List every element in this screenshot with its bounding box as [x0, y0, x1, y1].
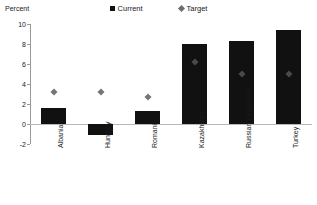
y-axis-tick-label: 4 — [0, 81, 26, 88]
legend-item-target: Target — [179, 5, 208, 13]
x-axis-category-label: Romania — [151, 120, 158, 148]
y-axis-tick-mark — [27, 144, 30, 145]
legend-label-current: Current — [118, 5, 143, 13]
diamond-icon — [178, 5, 185, 12]
y-axis-tick-mark — [27, 24, 30, 25]
y-axis-tick-mark — [27, 44, 30, 45]
square-icon — [110, 6, 115, 11]
y-axis-tick-label: 6 — [0, 61, 26, 68]
y-axis-tick-mark — [27, 104, 30, 105]
x-axis-category-label: Turkey — [292, 127, 299, 148]
legend-label-target: Target — [187, 5, 208, 13]
y-axis-tick-label: 8 — [0, 41, 26, 48]
y-axis-line — [30, 24, 31, 144]
x-axis-category-label: Albania — [57, 125, 64, 148]
bar-chart: Percent Current Target 1086420-2 Albania… — [0, 0, 317, 205]
y-axis-tick-label: 2 — [0, 101, 26, 108]
chart-legend: Current Target — [0, 5, 317, 13]
y-axis-tick-label: 0 — [0, 121, 26, 128]
x-axis-category-label: Russian Federation — [245, 87, 252, 148]
x-axis-category-label: Kazakhstan — [198, 111, 205, 148]
x-axis-category-label: Hungary — [104, 122, 111, 148]
y-axis-tick-mark — [27, 84, 30, 85]
y-axis-tick-mark — [27, 124, 30, 125]
y-axis-tick-mark — [27, 64, 30, 65]
y-axis-tick-label: 10 — [0, 21, 26, 28]
legend-item-current: Current — [110, 5, 143, 13]
y-axis-tick-label: -2 — [0, 141, 26, 148]
zero-baseline — [30, 124, 312, 125]
plot-area: 1086420-2 — [30, 24, 312, 144]
bar-current — [41, 108, 66, 124]
